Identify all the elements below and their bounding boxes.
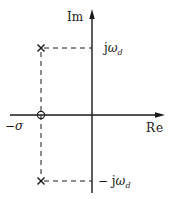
real-axis <box>10 112 165 117</box>
upper-pole-cross-icon <box>38 45 45 52</box>
real-axis-label: Re <box>146 122 164 134</box>
sigma-label: −σ <box>5 120 23 132</box>
sigma-minus-text: − <box>5 119 15 133</box>
lower-omega-text: ω <box>116 174 126 188</box>
im-text: Im <box>67 10 83 24</box>
lower-j-text: − j <box>98 174 116 188</box>
upper-omega-text: ω <box>108 41 118 55</box>
imaginary-axis-arrow-icon <box>89 9 94 19</box>
lower-pole-cross-icon <box>38 178 45 185</box>
imaginary-axis <box>89 9 94 193</box>
upper-subscript-text: d <box>118 48 123 57</box>
s-plane-diagram <box>0 0 174 199</box>
re-text: Re <box>146 121 164 135</box>
real-axis-arrow-icon <box>155 112 165 117</box>
imaginary-axis-label: Im <box>67 11 83 23</box>
upper-frequency-label: jωd <box>104 42 123 54</box>
lower-frequency-label: − jωd <box>98 175 131 187</box>
lower-subscript-text: d <box>125 181 130 190</box>
sigma-symbol-text: σ <box>15 119 23 133</box>
